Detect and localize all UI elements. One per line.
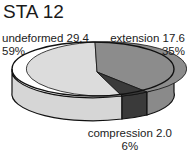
- label-undeformed: undeformed 29.4 59%: [2, 32, 89, 58]
- label-extension: extension 17.6 35%: [110, 32, 185, 58]
- side-compression: [122, 92, 147, 119]
- label-extension-value: extension 17.6: [110, 32, 185, 45]
- label-undeformed-value: undeformed 29.4: [2, 32, 89, 45]
- label-compression: compression 2.0 6%: [88, 127, 172, 150]
- label-compression-pct: 6%: [88, 140, 172, 150]
- label-undeformed-pct: 59%: [2, 45, 89, 58]
- label-compression-value: compression 2.0: [88, 127, 172, 140]
- label-extension-pct: 35%: [110, 45, 185, 58]
